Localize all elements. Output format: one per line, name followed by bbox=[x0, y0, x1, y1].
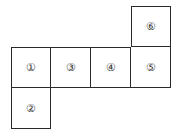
face-label: ⑥ bbox=[146, 21, 156, 32]
cube-net-diagram: ⑥ ① ③ ④ ⑤ ② bbox=[0, 0, 179, 138]
face-6: ⑥ bbox=[131, 6, 171, 47]
face-label: ③ bbox=[66, 62, 76, 73]
face-label: ② bbox=[26, 103, 36, 114]
face-label: ④ bbox=[106, 62, 116, 73]
face-3: ③ bbox=[51, 47, 91, 88]
face-2: ② bbox=[11, 88, 51, 129]
face-label: ⑤ bbox=[146, 62, 156, 73]
face-1: ① bbox=[11, 47, 51, 88]
face-4: ④ bbox=[91, 47, 131, 88]
face-label: ① bbox=[26, 62, 36, 73]
face-5: ⑤ bbox=[131, 47, 171, 88]
